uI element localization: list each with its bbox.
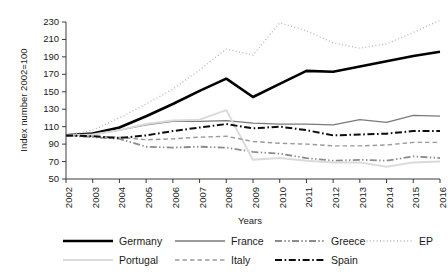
x-tick-label: 2005 <box>143 187 154 208</box>
legend-swatch-germany <box>62 235 114 247</box>
x-tick-label: 2013 <box>357 187 368 208</box>
y-tick-label: 90 <box>48 138 59 149</box>
legend-swatch-greece <box>274 235 326 247</box>
y-tick-label: 170 <box>43 68 59 79</box>
x-tick-label: 2011 <box>303 187 314 207</box>
legend-item-portugal[interactable]: Portugal <box>62 250 158 269</box>
chart-figure: Index number 2002=100 507090110130150170… <box>0 0 448 274</box>
legend-label: Greece <box>326 235 365 247</box>
y-tick-label: 210 <box>43 33 59 44</box>
legend-label: France <box>226 235 264 247</box>
legend-item-spain[interactable]: Spain <box>274 250 358 269</box>
y-tick-label: 50 <box>48 173 59 184</box>
x-tick-label: 2016 <box>437 187 448 208</box>
x-tick-label: 2015 <box>410 187 421 208</box>
x-tick-label: 2010 <box>277 187 288 208</box>
chart-legend: GermanyFranceGreeceEPPortugalItalySpain <box>62 231 448 273</box>
x-tick-label: 2003 <box>90 187 101 208</box>
x-axis-title: Years <box>238 215 262 226</box>
legend-row: GermanyFranceGreeceEP <box>62 231 448 250</box>
y-axis-title: Index number 2002=100 <box>18 48 29 151</box>
legend-swatch-italy <box>174 254 226 266</box>
y-tick-label: 110 <box>44 121 59 132</box>
x-tick-label: 2009 <box>250 187 261 208</box>
legend-label: Spain <box>326 254 358 266</box>
y-tick-label: 70 <box>48 156 59 167</box>
legend-item-france[interactable]: France <box>174 231 264 250</box>
x-tick-label: 2012 <box>330 187 341 208</box>
x-tick-label: 2007 <box>197 187 208 208</box>
x-tick-label: 2006 <box>170 187 181 208</box>
axis-lines <box>66 22 440 179</box>
x-tick-label: 2014 <box>384 187 395 208</box>
y-axis-ticks: 507090110130150170190210230 <box>43 16 66 184</box>
data-series-group <box>66 20 440 167</box>
legend-label: Italy <box>226 254 250 266</box>
y-tick-label: 150 <box>43 86 59 97</box>
legend-label: EP <box>414 235 433 247</box>
legend-label: Portugal <box>114 254 158 266</box>
legend-item-ep[interactable]: EP <box>362 231 433 250</box>
legend-swatch-france <box>174 235 226 247</box>
legend-label: Germany <box>114 235 162 247</box>
y-tick-label: 190 <box>43 51 59 62</box>
y-tick-label: 230 <box>43 16 59 27</box>
x-tick-label: 2002 <box>63 187 74 208</box>
y-tick-label: 130 <box>43 103 59 114</box>
legend-swatch-portugal <box>62 254 114 266</box>
legend-row: PortugalItalySpain <box>62 250 448 269</box>
x-axis-ticks: 2002200320042005200620072008200920102011… <box>63 179 448 208</box>
legend-item-italy[interactable]: Italy <box>174 250 250 269</box>
legend-swatch-ep <box>362 235 414 247</box>
x-tick-label: 2004 <box>116 187 127 208</box>
series-line-ep <box>66 20 440 135</box>
legend-swatch-spain <box>274 254 326 266</box>
series-line-greece <box>66 135 440 160</box>
legend-item-greece[interactable]: Greece <box>274 231 365 250</box>
legend-item-germany[interactable]: Germany <box>62 231 162 250</box>
x-tick-label: 2008 <box>223 187 234 208</box>
